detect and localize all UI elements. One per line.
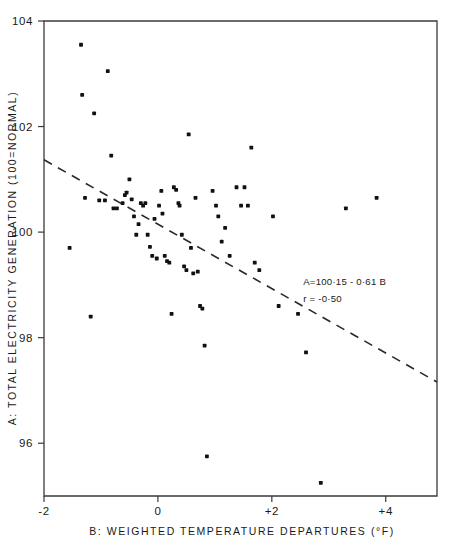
data-point-40 — [182, 265, 186, 269]
data-point-0 — [68, 246, 72, 250]
annotation-fit-correlation: r = -0·50 — [303, 293, 342, 304]
data-point-63 — [257, 268, 261, 272]
data-point-18 — [134, 233, 138, 237]
chart-background — [0, 0, 450, 546]
data-point-16 — [130, 197, 134, 201]
x-tick-label-0: 0 — [154, 505, 161, 517]
data-point-67 — [304, 351, 308, 355]
y-tick-label-96: 96 — [19, 437, 33, 449]
data-point-10 — [112, 206, 116, 210]
data-point-19 — [137, 222, 141, 226]
annotation-fit-equation: A=100·15 - 0·61 B — [303, 276, 386, 287]
data-point-59 — [243, 185, 247, 189]
data-point-42 — [187, 133, 191, 137]
data-point-17 — [132, 214, 136, 218]
data-point-55 — [223, 226, 227, 230]
data-point-62 — [253, 261, 257, 265]
data-point-50 — [205, 455, 209, 459]
data-point-24 — [148, 245, 152, 249]
data-point-31 — [163, 254, 167, 258]
data-point-6 — [97, 199, 101, 203]
data-point-1 — [79, 43, 83, 47]
data-point-69 — [344, 206, 348, 210]
y-axis-title: A: TOTAL ELECTRICITY GENERATION (100=NOR… — [6, 91, 18, 425]
data-point-58 — [239, 204, 243, 208]
data-point-8 — [106, 69, 110, 73]
data-point-30 — [161, 212, 165, 216]
data-point-23 — [146, 233, 150, 237]
data-point-70 — [375, 196, 379, 200]
data-point-54 — [220, 240, 224, 244]
x-tick-label--2: -2 — [38, 505, 49, 517]
data-point-5 — [92, 111, 96, 115]
data-point-51 — [211, 189, 215, 193]
data-point-45 — [194, 196, 198, 200]
x-tick-label-+4: +4 — [379, 505, 393, 517]
data-point-49 — [203, 344, 207, 348]
data-point-33 — [167, 261, 171, 265]
y-tick-label-98: 98 — [19, 332, 33, 344]
data-point-61 — [249, 146, 253, 150]
data-point-34 — [170, 312, 174, 316]
data-point-48 — [200, 307, 204, 311]
data-point-27 — [155, 257, 159, 261]
data-point-28 — [157, 204, 161, 208]
data-point-26 — [153, 217, 157, 221]
y-tick-label-104: 104 — [12, 15, 33, 27]
data-point-38 — [178, 204, 182, 208]
data-point-36 — [174, 188, 178, 192]
data-point-7 — [103, 199, 107, 203]
data-point-57 — [235, 185, 239, 189]
data-point-46 — [196, 270, 200, 274]
chart-canvas: 9698100102104 -20+2+4 A=100·15 - 0·61 Br… — [0, 0, 450, 546]
data-point-64 — [271, 214, 275, 218]
x-tick-label-+2: +2 — [265, 505, 279, 517]
data-point-9 — [109, 154, 113, 158]
data-point-2 — [80, 93, 84, 97]
data-point-11 — [115, 206, 119, 210]
data-point-52 — [214, 204, 218, 208]
data-point-22 — [143, 201, 147, 205]
data-point-41 — [184, 268, 188, 272]
data-point-3 — [83, 196, 87, 200]
data-point-60 — [246, 204, 250, 208]
data-point-25 — [150, 254, 154, 258]
x-axis-title: B: WEIGHTED TEMPERATURE DEPARTURES (°F) — [89, 525, 394, 537]
data-point-4 — [89, 315, 93, 319]
data-point-43 — [189, 246, 193, 250]
scatter-chart-figure: 9698100102104 -20+2+4 A=100·15 - 0·61 Br… — [0, 0, 450, 546]
data-point-56 — [228, 254, 232, 258]
data-point-14 — [125, 191, 129, 195]
data-point-68 — [319, 481, 323, 485]
data-point-66 — [296, 312, 300, 316]
data-point-44 — [191, 271, 195, 275]
data-point-29 — [159, 189, 163, 193]
data-point-39 — [180, 233, 184, 237]
data-point-15 — [128, 177, 132, 181]
data-point-65 — [277, 304, 281, 308]
data-point-53 — [216, 214, 220, 218]
